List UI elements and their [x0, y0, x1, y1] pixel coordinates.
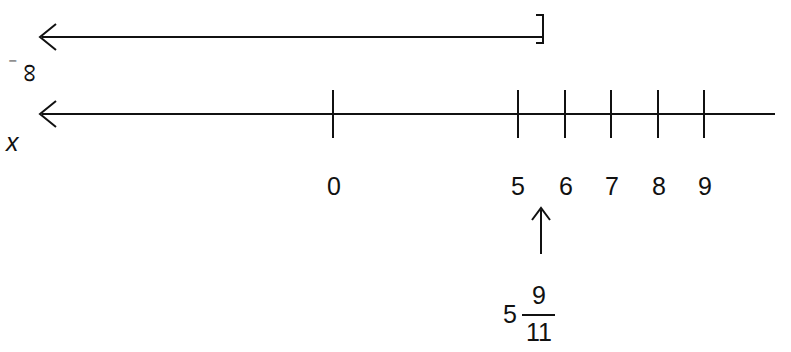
- tick-label-9: 9: [698, 174, 712, 199]
- tick-label-6: 6: [559, 174, 573, 199]
- fraction-whole: 5: [503, 302, 517, 327]
- closed-bracket-icon: [536, 15, 543, 43]
- tick-label-0: 0: [327, 174, 341, 199]
- tick-label-8: 8: [652, 174, 666, 199]
- number-line-graphic: [0, 0, 791, 352]
- variable-label: x: [6, 130, 19, 155]
- infinity-symbol: ∞: [18, 64, 44, 83]
- up-arrow-icon: [532, 208, 550, 254]
- fraction-denominator: 11: [526, 320, 552, 345]
- tick-label-5: 5: [511, 174, 525, 199]
- axis: [40, 90, 775, 138]
- tick-label-7: 7: [605, 174, 619, 199]
- solution-ray: [40, 15, 543, 50]
- fraction-numerator: 9: [532, 283, 546, 308]
